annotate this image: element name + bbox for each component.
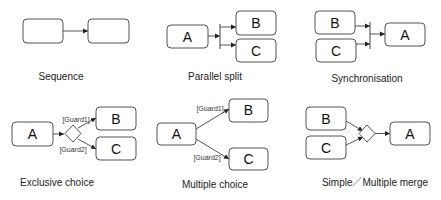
parallel-label-b: B (251, 15, 260, 31)
or-label-a: A (172, 126, 182, 142)
merge-label-a: A (405, 126, 415, 142)
caption-exclusive-choice: Exclusive choice (20, 177, 94, 188)
xor-guard2: [Guard2] (59, 146, 86, 154)
pattern-synchronisation: B C A Synchronisation (315, 11, 425, 84)
caption-sequence: Sequence (38, 71, 83, 82)
pattern-exclusive-choice: A B C [Guard1] [Guard2] Exclusive choice (12, 107, 136, 188)
parallel-label-a: A (183, 29, 193, 45)
pattern-multiple-choice: A B C [Guard1] [Guard2] Multiple choice (157, 99, 268, 190)
xor-label-c: C (111, 141, 121, 157)
pattern-parallel-split: A B C Parallel split (167, 11, 276, 82)
parallel-label-c: C (251, 43, 261, 59)
arrow-icon (196, 109, 229, 129)
xor-label-a: A (28, 126, 38, 142)
sequence-box-1 (23, 19, 63, 43)
caption-multiple-choice: Multiple choice (182, 179, 249, 190)
pattern-merge: B C A Simple／Multiple merge (306, 107, 430, 188)
sync-label-b: B (330, 15, 339, 31)
or-label-b: B (244, 102, 253, 118)
caption-parallel-split: Parallel split (188, 71, 242, 82)
merge-diamond-icon (359, 125, 375, 142)
arrow-icon (346, 121, 363, 131)
merge-label-c: C (321, 140, 331, 156)
xor-guard1: [Guard1] (62, 116, 89, 124)
or-guard2: [Guard2] (193, 154, 220, 162)
arrow-icon (346, 137, 363, 145)
merge-label-b: B (321, 111, 330, 127)
or-label-c: C (243, 151, 253, 167)
sync-label-a: A (400, 27, 410, 43)
pattern-sequence: Sequence (23, 19, 129, 82)
sequence-box-2 (88, 19, 129, 43)
caption-merge: Simple／Multiple merge (322, 177, 429, 188)
xor-label-b: B (111, 111, 120, 127)
sync-label-c: C (331, 43, 341, 59)
workflow-patterns-diagram: Sequence A B C Parallel split B C A Sync… (0, 0, 441, 200)
or-guard1: [Guard1] (196, 105, 223, 113)
caption-synchronisation: Synchronisation (331, 73, 402, 84)
